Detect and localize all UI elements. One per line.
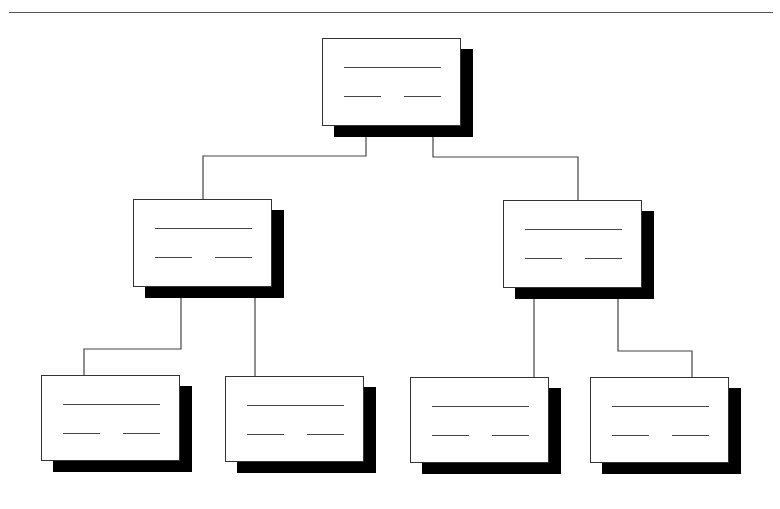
placeholder-text-line <box>432 435 469 436</box>
node-box <box>410 377 549 463</box>
placeholder-text-line <box>612 406 709 407</box>
node-box <box>133 199 272 287</box>
node-leaf-1 <box>41 375 192 473</box>
node-box <box>322 38 461 126</box>
node-leaf-4 <box>590 377 741 475</box>
placeholder-text-line <box>63 433 100 434</box>
placeholder-text-line <box>247 434 284 435</box>
edge-root-mid-left <box>203 137 366 199</box>
placeholder-text-line <box>155 257 192 258</box>
placeholder-text-line <box>155 228 252 229</box>
node-box <box>41 375 180 461</box>
placeholder-text-line <box>585 258 622 259</box>
node-mid-left <box>133 199 284 299</box>
placeholder-text-line <box>432 406 529 407</box>
placeholder-text-line <box>123 433 160 434</box>
node-box <box>503 200 642 288</box>
placeholder-text-line <box>525 258 562 259</box>
placeholder-text-line <box>247 405 344 406</box>
placeholder-text-line <box>63 404 160 405</box>
placeholder-text-line <box>215 257 252 258</box>
edge-mid-left-leaf-1 <box>84 297 181 375</box>
placeholder-text-line <box>672 435 709 436</box>
node-mid-right <box>503 200 654 300</box>
placeholder-text-line <box>344 96 381 97</box>
node-box <box>225 376 364 462</box>
edge-root-mid-right <box>433 137 578 200</box>
node-root <box>322 38 473 138</box>
placeholder-text-line <box>612 435 649 436</box>
placeholder-text-line <box>344 67 441 68</box>
placeholder-text-line <box>307 434 344 435</box>
placeholder-text-line <box>404 96 441 97</box>
edge-mid-right-leaf-4 <box>618 298 692 377</box>
placeholder-text-line <box>525 229 622 230</box>
node-box <box>590 377 729 463</box>
node-leaf-3 <box>410 377 561 475</box>
node-leaf-2 <box>225 376 376 474</box>
placeholder-text-line <box>492 435 529 436</box>
